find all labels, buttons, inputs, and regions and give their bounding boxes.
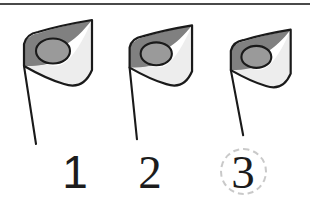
flag-center-oval-icon <box>141 42 172 65</box>
flag-pole-icon <box>231 70 243 135</box>
number-answer-row: 1 2 3 <box>0 145 310 197</box>
flag-graphic-small <box>215 22 303 142</box>
flag-pole-icon <box>24 66 36 144</box>
number-option-1[interactable]: 1 <box>47 145 103 197</box>
flag-center-oval-icon <box>241 46 271 68</box>
top-divider-rule <box>0 3 310 5</box>
flag-item-2[interactable] <box>113 18 205 142</box>
number-option-2[interactable]: 2 <box>122 145 178 197</box>
numeral-label-1: 1 <box>62 149 88 195</box>
worksheet-canvas: 1 2 3 <box>0 0 310 197</box>
flag-center-oval-icon <box>36 39 70 64</box>
flag-item-3[interactable] <box>215 22 303 142</box>
flag-graphic-large <box>6 12 106 147</box>
number-option-3[interactable]: 3 <box>215 145 271 197</box>
numeral-label-2: 2 <box>138 149 162 196</box>
flag-pole-icon <box>130 68 137 140</box>
flag-item-1[interactable] <box>6 12 106 147</box>
numeral-label-3: 3 <box>231 149 255 196</box>
flag-graphic-medium <box>113 18 205 142</box>
